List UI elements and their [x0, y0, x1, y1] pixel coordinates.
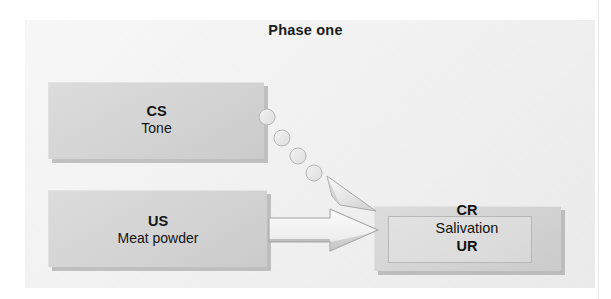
- cs-code-label: CS: [49, 103, 264, 119]
- ur-code-label: UR: [374, 238, 560, 254]
- us-code-label: US: [49, 213, 267, 229]
- cs-box: CS Tone: [48, 82, 264, 159]
- conditioning-diagram: Phase one CS Tone US Meat powder CR Sali…: [0, 0, 611, 299]
- cr-sublabel: Salivation: [374, 220, 560, 236]
- us-box: US Meat powder: [48, 190, 267, 267]
- page-gutter-line: [598, 0, 599, 299]
- page-title: Phase one: [0, 22, 611, 38]
- cr-code-label: CR: [374, 202, 560, 218]
- cs-sublabel: Tone: [49, 120, 264, 136]
- us-sublabel: Meat powder: [49, 230, 267, 246]
